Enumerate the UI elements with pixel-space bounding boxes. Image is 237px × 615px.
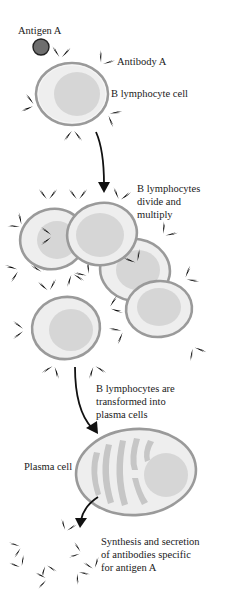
plasma-cell-label: Plasma cell xyxy=(24,461,72,472)
b-cell-nucleus xyxy=(54,72,100,116)
secreted-antibodies xyxy=(9,519,104,589)
stage-1-b-cell: Antigen A Antibody A B lymphocyte cell xyxy=(18,25,188,141)
b-cell-diagram: Antigen A Antibody A B lymphocyte cell xyxy=(0,0,237,615)
plasma-cell-nucleus xyxy=(144,453,188,497)
stage-3-plasma-cell: Plasma cell xyxy=(24,425,199,519)
transform-label: B lymphocytes are transformed into plasm… xyxy=(96,383,177,420)
antibody-label: Antibody A xyxy=(117,56,167,67)
divide-label: B lymphocytes divide and multiply xyxy=(137,183,203,220)
synthesis-label: Synthesis and secretion of antibodies sp… xyxy=(101,536,202,573)
b-cell-label: B lymphocyte cell xyxy=(111,88,188,99)
antibody-cell1-bottom xyxy=(64,124,82,141)
stage-2-division: B lymphocytes divide and multiply xyxy=(5,183,206,379)
antigen-a xyxy=(33,39,49,55)
arrow-to-plasma-cell xyxy=(75,367,98,434)
antigen-label: Antigen A xyxy=(18,25,62,36)
arrow-to-division xyxy=(96,132,110,193)
divided-cell-5 xyxy=(13,279,123,379)
